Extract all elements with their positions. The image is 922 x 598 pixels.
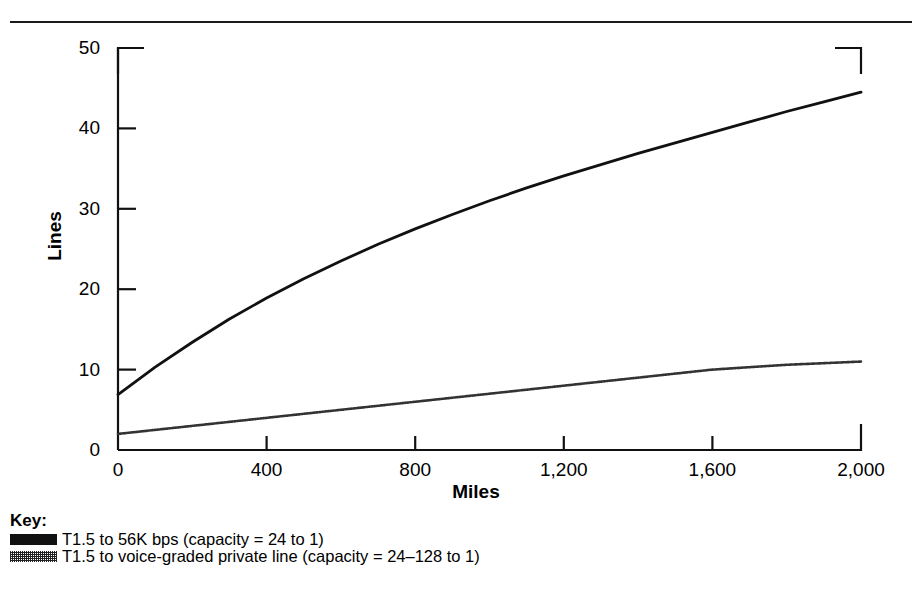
legend-entries: T1.5 to 56K bps (capacity = 24 to 1)T1.5… — [10, 531, 630, 565]
x-tick-label: 1,200 — [519, 460, 609, 479]
y-tick-label: 0 — [40, 440, 100, 459]
x-axis-title: Miles — [416, 481, 536, 503]
x-tick-label: 800 — [370, 460, 460, 479]
y-tick-label: 40 — [40, 118, 100, 137]
axis-corner-brackets — [118, 48, 861, 450]
legend-swatch-solid-icon — [10, 534, 57, 545]
plot-svg — [0, 0, 922, 598]
legend-entry-label: T1.5 to voice-graded private line (capac… — [62, 548, 480, 565]
legend-swatch-dotted-icon — [10, 551, 57, 562]
legend-entry: T1.5 to voice-graded private line (capac… — [10, 548, 630, 565]
x-tick-label: 0 — [73, 460, 163, 479]
legend-title: Key: — [10, 512, 630, 530]
x-tick-label: 400 — [222, 460, 312, 479]
y-tick-label: 50 — [40, 38, 100, 57]
y-axis-title: Lines — [44, 176, 66, 296]
series-line-2 — [118, 362, 861, 434]
chart-figure: 01020304050 04008001,2001,6002,000 Lines… — [0, 0, 922, 598]
series-lines — [118, 92, 861, 434]
plot-area: 01020304050 04008001,2001,6002,000 Lines… — [0, 0, 922, 598]
legend-entry: T1.5 to 56K bps (capacity = 24 to 1) — [10, 531, 630, 548]
y-tick-label: 10 — [40, 360, 100, 379]
legend-entry-label: T1.5 to 56K bps (capacity = 24 to 1) — [62, 531, 324, 548]
x-tick-label: 1,600 — [667, 460, 757, 479]
legend: Key: T1.5 to 56K bps (capacity = 24 to 1… — [10, 512, 630, 565]
series-line-1 — [118, 92, 861, 394]
x-tick-label: 2,000 — [816, 460, 906, 479]
